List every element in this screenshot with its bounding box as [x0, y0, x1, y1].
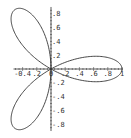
x-tick-label: .4 — [75, 70, 83, 78]
y-tick-label: .8 — [52, 10, 60, 18]
y-tick-label: .2 — [52, 52, 60, 60]
x-tick-label: -0.4 — [14, 70, 31, 78]
y-tick-label: .6 — [52, 24, 60, 32]
y-tick-label: -.2 — [52, 79, 65, 87]
x-tick-label: .8 — [104, 70, 112, 78]
x-tick-label: .6 — [89, 70, 97, 78]
rose-curve-chart: -0.4.2.2.4.6.810-.8-.6-.4-.2.2.4.6.8 — [0, 0, 131, 138]
y-tick-label: .4 — [52, 38, 60, 46]
y-tick-label: -.8 — [52, 121, 65, 129]
tick-labels: -0.4.2.2.4.6.810-.8-.6-.4-.2.2.4.6.8 — [14, 10, 124, 128]
y-tick-label: -.4 — [52, 93, 65, 101]
y-tick-label: -.6 — [52, 107, 65, 115]
